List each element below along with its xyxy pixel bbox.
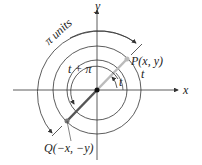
angle-t-label: t	[119, 76, 122, 88]
point-p	[125, 57, 130, 62]
unit-circle-diagram: y x P(x, y) Q(−x, −y) t t t + π π units	[0, 0, 202, 165]
y-axis-label: y	[95, 0, 100, 12]
angle-t-indicator	[112, 77, 117, 88]
diagram-canvas	[0, 0, 202, 165]
point-q-label: Q(−x, −y)	[44, 142, 94, 154]
angle-t-plus-pi-label: t + π	[68, 63, 91, 75]
origin-point	[95, 88, 100, 93]
tick-q	[52, 126, 62, 136]
pi-units-arc-start	[70, 31, 136, 43]
point-p-label: P(x, y)	[131, 55, 163, 67]
x-axis-label: x	[183, 84, 188, 96]
arc-t-label: t	[141, 68, 144, 80]
